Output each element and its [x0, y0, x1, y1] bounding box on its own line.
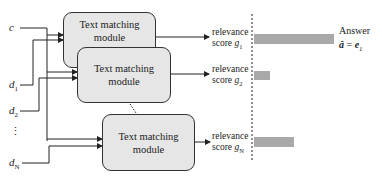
input-dN-sub: N: [15, 163, 20, 171]
score-1-sub: 1: [239, 43, 242, 50]
score-2-prefix: score: [212, 75, 234, 85]
score-N-prefix: score: [212, 142, 234, 152]
answer-annotation: Answer â = e1: [339, 24, 370, 56]
score-N-sub: N: [239, 147, 244, 154]
score-N-label: relevance: [212, 131, 248, 142]
module-N-subtitle: module: [118, 143, 178, 156]
relevance-score-2: relevance score g2: [212, 64, 248, 89]
module-1-title: Text matching: [79, 18, 139, 31]
module-2-subtitle: module: [94, 75, 154, 88]
input-ellipsis: ⋮: [10, 129, 14, 133]
module-1-subtitle: module: [79, 31, 139, 44]
input-label-d2: d2: [9, 105, 18, 121]
score-1-prefix: score: [212, 38, 234, 48]
answer-equation: â = e1: [339, 38, 370, 56]
relevance-score-N: relevance score gN: [212, 131, 248, 156]
input-d2-sub: 2: [15, 111, 19, 119]
score-bar-1: [254, 34, 334, 44]
text-matching-module-N: Text matching module: [102, 114, 195, 171]
input-label-d1: d1: [9, 79, 18, 95]
text-matching-module-2: Text matching module: [77, 47, 171, 103]
relevance-score-1: relevance score g1: [212, 27, 248, 52]
score-1-label: relevance: [212, 27, 248, 38]
answer-label: Answer: [339, 24, 370, 38]
answer-rhs-sub: 1: [359, 45, 363, 53]
module-N-title: Text matching: [118, 130, 178, 143]
score-bar-2: [254, 71, 270, 80]
score-2-sub: 2: [239, 80, 242, 87]
score-2-label: relevance: [212, 64, 248, 75]
answer-equals: =: [344, 39, 355, 50]
input-c-text: c: [9, 21, 14, 33]
input-label-dN: dN: [9, 157, 20, 173]
input-d1-sub: 1: [15, 85, 19, 93]
input-label-c: c: [9, 22, 14, 33]
score-bar-N: [254, 137, 294, 147]
module-2-title: Text matching: [94, 62, 154, 75]
